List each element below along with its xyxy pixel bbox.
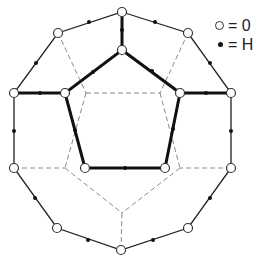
legend-hydrogen: = H	[215, 35, 253, 54]
filled-dot-icon	[218, 42, 223, 47]
front-pentagon-edges	[14, 12, 231, 168]
back-face-dashed-edges	[14, 33, 231, 250]
open-circle-icon	[215, 21, 224, 30]
legend-oxygen: = 0	[215, 16, 253, 35]
legend-oxygen-label: = 0	[228, 16, 251, 35]
legend: = 0 = H	[215, 16, 253, 54]
legend-hydrogen-label: = H	[228, 35, 253, 54]
